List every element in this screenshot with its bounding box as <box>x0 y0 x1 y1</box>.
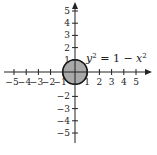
svg-text:1: 1 <box>84 77 90 87</box>
equation-label: y2 = 1 − x2 <box>85 52 147 65</box>
svg-text:−1: −1 <box>53 77 66 87</box>
svg-text:4: 4 <box>121 77 127 87</box>
svg-text:4: 4 <box>64 18 70 28</box>
svg-text:1: 1 <box>64 55 70 65</box>
svg-text:2: 2 <box>97 77 103 87</box>
svg-text:−2: −2 <box>57 91 70 101</box>
svg-text:5: 5 <box>133 77 139 87</box>
svg-text:2: 2 <box>64 43 70 53</box>
svg-text:−4: −4 <box>57 116 71 126</box>
y-axis-arrow-icon <box>72 2 78 9</box>
svg-text:−5: −5 <box>57 128 71 138</box>
x-axis-arrow-icon <box>145 69 152 75</box>
svg-text:3: 3 <box>109 77 115 87</box>
svg-text:−5: −5 <box>5 77 19 87</box>
circle-graph: −5 −4 −3 −2 −1 1 2 3 4 5 5 4 3 2 1 −2 −3… <box>0 0 157 155</box>
svg-text:−3: −3 <box>57 104 71 114</box>
svg-text:3: 3 <box>64 30 70 40</box>
svg-text:5: 5 <box>64 6 70 16</box>
